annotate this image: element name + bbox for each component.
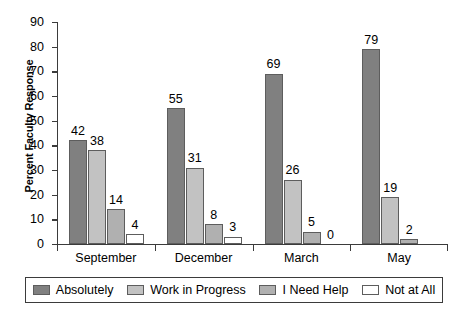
bar-value-label: 14 xyxy=(102,194,130,207)
y-axis-tick-label: 20 xyxy=(30,188,44,201)
bar[interactable] xyxy=(186,168,204,244)
y-axis-tick xyxy=(52,219,57,220)
legend-item[interactable]: Absolutely xyxy=(33,283,114,297)
bar-value-label: 79 xyxy=(357,34,385,47)
legend-label-absolutely: Absolutely xyxy=(56,283,114,297)
legend-label-not-at-all: Not at All xyxy=(385,283,435,297)
bar-value-label: 3 xyxy=(219,221,247,234)
bar-value-label: 19 xyxy=(376,182,404,195)
y-axis-tick-label: 0 xyxy=(37,238,44,251)
bar-value-label: 26 xyxy=(279,164,307,177)
bar-value-label: 5 xyxy=(298,216,326,229)
bar[interactable] xyxy=(381,197,399,244)
legend-item[interactable]: I Need Help xyxy=(259,283,348,297)
bar-chart-figure: Percent Faculty Response 010203040506070… xyxy=(0,0,468,319)
bar-group: 4238144 xyxy=(69,22,144,244)
y-axis-tick-label: 30 xyxy=(30,164,44,177)
bar-value-label: 38 xyxy=(83,135,111,148)
bar-value-label: 69 xyxy=(260,58,288,71)
plot-area: 0102030405060708090 42381445531836926507… xyxy=(57,22,448,245)
legend-item[interactable]: Work in Progress xyxy=(127,283,246,297)
bar-value-label: 2 xyxy=(395,224,423,237)
bar[interactable] xyxy=(126,234,144,244)
legend-label-work-in-progress: Work in Progress xyxy=(150,283,246,297)
bar-group: 79192 xyxy=(362,22,437,244)
bar-group: 553183 xyxy=(167,22,242,244)
bar[interactable] xyxy=(167,108,185,244)
y-axis-tick-label: 70 xyxy=(30,65,44,78)
y-axis-tick xyxy=(52,121,57,122)
bar-value-label: 8 xyxy=(200,209,228,222)
x-axis-category-label: March xyxy=(253,251,351,265)
bar-group: 692650 xyxy=(265,22,340,244)
bar[interactable] xyxy=(400,239,418,244)
bar[interactable] xyxy=(224,237,242,244)
bar-value-label: 0 xyxy=(317,229,345,242)
y-axis-tick xyxy=(52,71,57,72)
legend-swatch-i-need-help xyxy=(259,285,276,295)
y-axis-tick xyxy=(52,47,57,48)
x-axis-category-label: December xyxy=(155,251,253,265)
y-axis-tick-label: 40 xyxy=(30,139,44,152)
y-axis-tick-label: 50 xyxy=(30,114,44,127)
bar[interactable] xyxy=(265,74,283,244)
y-axis-tick xyxy=(52,195,57,196)
bar[interactable] xyxy=(69,140,87,244)
legend-label-i-need-help: I Need Help xyxy=(282,283,348,297)
y-axis-tick-label: 10 xyxy=(30,213,44,226)
y-axis-tick xyxy=(52,22,57,23)
bar-value-label: 4 xyxy=(121,219,149,232)
legend-swatch-work-in-progress xyxy=(127,285,144,295)
y-axis-tick-label: 90 xyxy=(30,16,44,29)
legend-swatch-absolutely xyxy=(33,285,50,295)
y-axis-tick xyxy=(52,145,57,146)
legend-swatch-not-at-all xyxy=(362,285,379,295)
y-axis-tick xyxy=(52,96,57,97)
y-axis-tick-label: 80 xyxy=(30,40,44,53)
y-axis-tick-label: 60 xyxy=(30,90,44,103)
bar[interactable] xyxy=(284,180,302,244)
y-axis-line xyxy=(57,22,58,245)
x-axis-category-label: May xyxy=(350,251,448,265)
bar[interactable] xyxy=(362,49,380,244)
legend-item[interactable]: Not at All xyxy=(362,283,435,297)
y-axis-tick xyxy=(52,170,57,171)
bar-value-label: 31 xyxy=(181,152,209,165)
chart-legend: Absolutely Work in Progress I Need Help … xyxy=(25,277,443,303)
x-axis-category-label: September xyxy=(57,251,155,265)
bar-value-label: 55 xyxy=(162,93,190,106)
